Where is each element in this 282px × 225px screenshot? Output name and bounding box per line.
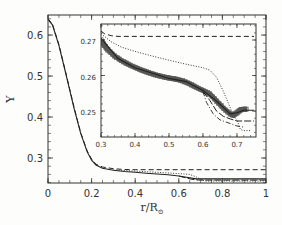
y-tick-label: 0.25 (80, 109, 96, 117)
x-tick-label: 0.4 (127, 188, 143, 199)
x-tick-label: 0.4 (129, 141, 141, 149)
y-tick-label: 0.26 (80, 74, 96, 82)
x-tick-label: 0.7 (231, 141, 242, 149)
x-tick-label: 0 (45, 188, 51, 199)
x-tick-label: 1 (263, 188, 269, 199)
x-tick-label: 0.5 (163, 141, 174, 149)
y-tick-label: 0.5 (27, 71, 43, 82)
x-axis-label: r/R⊙ (140, 201, 163, 216)
x-tick-label: 0.6 (197, 141, 209, 149)
x-tick-label: 0.8 (214, 188, 230, 199)
y-tick-label: 0.3 (27, 153, 43, 164)
y-axis-label: Y (4, 95, 17, 104)
x-tick-label: 0.2 (84, 188, 100, 199)
y-tick-label: 0.6 (27, 30, 43, 41)
x-tick-label: 0.3 (95, 141, 106, 149)
figure: 00.20.40.60.810.30.40.50.6 Y r/R⊙ 0.30.4… (0, 0, 282, 225)
y-tick-label: 0.4 (27, 112, 43, 123)
inset-plot: 0.30.40.50.60.70.250.260.27 (80, 24, 256, 149)
x-tick-label: 0.6 (171, 188, 187, 199)
y-tick-label: 0.27 (80, 38, 96, 46)
